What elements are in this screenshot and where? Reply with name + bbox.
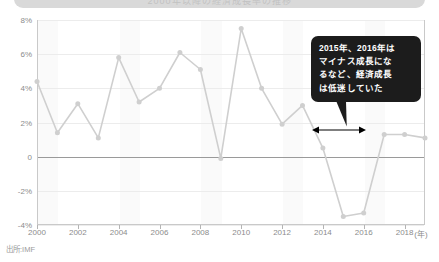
chart-page: 2000年以降の経済成長率の推移 8%6%4%2%0-2%-4% 2000200… [0,0,439,262]
callout-box: 2015年、2016年は マイナス成長にな るなど、経済成長 は低迷していた [311,36,421,102]
callout-text: 2015年、2016年は マイナス成長にな るなど、経済成長 は低迷していた [319,42,414,95]
chart-container: 8%6%4%2%0-2%-4% 200020022004200620082010… [0,0,439,262]
